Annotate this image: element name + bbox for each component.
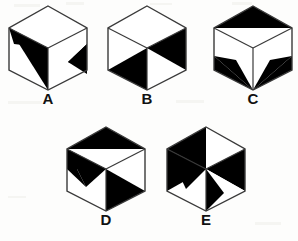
option-c[interactable]: C bbox=[211, 4, 295, 107]
cube-a-drawing bbox=[6, 4, 90, 92]
option-a[interactable]: A bbox=[6, 4, 90, 107]
cube-d-shade-top bbox=[67, 127, 145, 149]
option-d[interactable]: D bbox=[64, 125, 148, 228]
option-b-label: B bbox=[105, 91, 189, 107]
option-e-label: E bbox=[164, 212, 248, 228]
option-e[interactable]: E bbox=[164, 125, 248, 228]
option-b[interactable]: B bbox=[105, 4, 189, 107]
cube-d-drawing bbox=[64, 125, 148, 213]
cube-b-drawing bbox=[105, 4, 189, 92]
scan-artifact bbox=[255, 222, 281, 225]
option-c-label: C bbox=[211, 91, 295, 107]
cube-c-shade-top bbox=[214, 6, 292, 28]
cube-e-drawing bbox=[164, 125, 248, 213]
option-d-label: D bbox=[64, 212, 148, 228]
option-a-label: A bbox=[6, 91, 90, 107]
cube-c-drawing bbox=[211, 4, 295, 92]
scan-artifact bbox=[8, 196, 26, 198]
cube-options-figure: A B bbox=[0, 0, 298, 241]
